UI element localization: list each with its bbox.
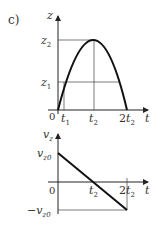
z-axis-label: z	[46, 9, 53, 22]
z-curve	[58, 40, 127, 110]
figure-canvas: c) z t 0 z2 z1 t1 t2 2t2 vz t 0	[0, 0, 161, 231]
vz-axis-label: vz	[43, 128, 53, 143]
z2-label: z2	[40, 34, 51, 49]
t2-label-bottom: t2	[89, 184, 98, 199]
vz0-label: vz0	[37, 147, 52, 162]
2t2-label-top: 2t2	[119, 112, 135, 127]
z1-label: z1	[40, 76, 51, 91]
bottom-plot: vz t 0 vz0 −vz0 t2 2t2	[27, 128, 150, 219]
origin-label-bottom: 0	[49, 185, 55, 196]
top-plot: z t 0 z2 z1 t1 t2 2t2	[40, 9, 150, 127]
neg-vz0-label: −vz0	[27, 204, 51, 219]
t2-label-top: t2	[89, 112, 98, 127]
t1-label: t1	[61, 112, 70, 127]
figure-label: c)	[8, 13, 19, 27]
origin-label-top: 0	[49, 111, 55, 122]
2t2-label-bottom: 2t2	[119, 184, 135, 199]
t-axis-label-bottom: t	[145, 184, 150, 197]
t-axis-label-top: t	[145, 112, 150, 125]
